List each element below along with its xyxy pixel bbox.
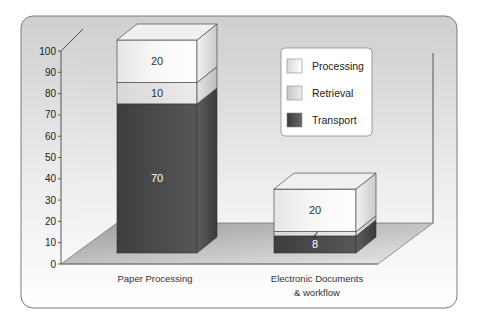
legend-swatch-processing bbox=[287, 59, 302, 73]
y-tick-label: 20 bbox=[45, 216, 57, 227]
category-label: & workflow bbox=[294, 287, 340, 298]
legend-swatch-transport bbox=[287, 113, 302, 127]
y-tick-label: 40 bbox=[45, 173, 57, 184]
y-tick-label: 60 bbox=[45, 131, 57, 142]
data-label: 20 bbox=[151, 55, 163, 67]
y-tick-label: 70 bbox=[45, 109, 57, 120]
data-label: 8 bbox=[312, 238, 318, 250]
data-label: 10 bbox=[151, 87, 163, 99]
legend: ProcessingRetrievalTransport bbox=[281, 48, 372, 136]
legend-label-processing: Processing bbox=[312, 60, 364, 72]
bar-side-transport bbox=[197, 88, 217, 253]
stacked-3d-bar-chart: 0102030405060708090100 7010208220 Paper … bbox=[0, 0, 480, 324]
y-tick-label: 50 bbox=[45, 152, 57, 163]
y-tick-label: 80 bbox=[45, 88, 57, 99]
legend-swatch-retrieval bbox=[287, 86, 302, 100]
category-label: Paper Processing bbox=[118, 273, 193, 284]
y-tick-label: 0 bbox=[50, 259, 56, 270]
y-tick-label: 30 bbox=[45, 195, 57, 206]
y-tick-label: 100 bbox=[39, 46, 56, 57]
chart-container: 0102030405060708090100 7010208220 Paper … bbox=[0, 0, 480, 324]
y-tick-label: 10 bbox=[45, 237, 57, 248]
legend-label-transport: Transport bbox=[312, 114, 357, 126]
data-label: 20 bbox=[309, 204, 321, 216]
bar-stack-0: 701020 bbox=[117, 24, 217, 253]
y-tick-label: 90 bbox=[45, 67, 57, 78]
legend-label-retrieval: Retrieval bbox=[312, 87, 353, 99]
category-label: Electronic Documents bbox=[271, 273, 364, 284]
bar-stack-1: 8220 bbox=[274, 173, 376, 253]
data-label: 70 bbox=[151, 172, 163, 184]
